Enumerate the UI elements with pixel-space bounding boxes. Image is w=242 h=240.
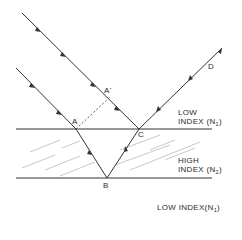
label-middle-region: HIGH INDEX (N2)	[178, 156, 222, 177]
arrow-icon	[60, 52, 66, 57]
incident-ray-lower	[16, 68, 76, 129]
label-bottom-region: LOW INDEX(N1)	[157, 203, 220, 215]
label-point-c: C	[138, 130, 144, 139]
label-point-d: D	[208, 62, 214, 71]
ray-a-to-b	[76, 129, 107, 178]
wavefront-dashed-line	[76, 97, 110, 129]
ray-b-to-c	[107, 129, 139, 178]
arrow-icon	[35, 27, 41, 32]
arrow-icon	[56, 110, 62, 115]
high-index-hatching	[22, 135, 200, 176]
label-top-region: LOW INDEX (N1)	[178, 108, 222, 129]
arrow-icon	[156, 106, 161, 112]
label-point-a-prime: A'	[104, 86, 111, 95]
label-point-a: A	[72, 117, 78, 126]
arrow-icon	[188, 75, 193, 81]
label-point-b: B	[103, 181, 109, 190]
